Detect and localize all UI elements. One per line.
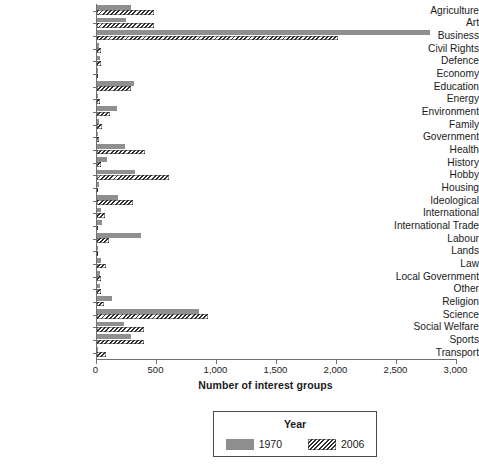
bar-2006-agriculture (97, 10, 155, 15)
bar-2006-social-welfare (97, 327, 144, 332)
category-tick (93, 36, 96, 37)
bar-1970-business (97, 30, 430, 35)
bar-2006-sports (97, 340, 144, 345)
bar-2006-international-trade (97, 226, 98, 231)
legend-swatch-1970-icon (226, 439, 254, 450)
bar-1970-other (97, 284, 100, 289)
bar-2006-science (97, 314, 209, 319)
category-label: Other (387, 284, 479, 294)
category-label: Defence (387, 56, 479, 66)
category-label: Social Welfare (387, 322, 479, 332)
category-tick (93, 302, 96, 303)
bar-2006-art (97, 23, 154, 28)
legend-items: 1970 2006 (214, 438, 376, 450)
category-tick (93, 277, 96, 278)
bar-2006-defence (97, 61, 101, 66)
category-tick (93, 125, 96, 126)
legend-swatch-2006-icon (308, 439, 336, 450)
bar-2006-international (97, 213, 105, 218)
category-label: Transport (387, 348, 479, 358)
category-label: Environment (387, 107, 479, 117)
bar-1970-local-government (97, 271, 101, 276)
bar-2006-labour (97, 238, 110, 243)
x-tick-label: 3,000 (444, 364, 468, 375)
legend-item-2006: 2006 (308, 438, 364, 450)
category-label: Local Government (387, 272, 479, 282)
x-axis-title: Number of interest groups (0, 379, 479, 391)
x-axis-title-text: Number of interest groups (198, 379, 332, 391)
category-tick (93, 23, 96, 24)
bar-2006-education (97, 86, 132, 91)
bar-2006-local-government (97, 276, 101, 281)
bar-1970-labour (97, 233, 141, 238)
bar-1970-science (97, 309, 199, 314)
category-tick (93, 239, 96, 240)
category-label: Art (387, 18, 479, 28)
bar-1970-transport (97, 347, 99, 352)
legend-label-1970: 1970 (259, 438, 282, 450)
category-tick (93, 213, 96, 214)
category-label: International (387, 208, 479, 218)
bar-2006-history (97, 162, 102, 167)
bar-1970-civil-rights (97, 43, 99, 48)
category-tick (93, 226, 96, 227)
bar-1970-hobby (97, 170, 135, 175)
category-label: History (387, 158, 479, 168)
category-label: Economy (387, 69, 479, 79)
bar-2006-environment (97, 112, 111, 117)
bar-2006-health (97, 150, 145, 155)
category-tick (93, 11, 96, 12)
bar-1970-sports (97, 334, 132, 339)
bar-1970-international-trade (97, 220, 102, 225)
x-tick-label: 1,000 (204, 364, 228, 375)
bar-1970-environment (97, 106, 117, 111)
category-tick (93, 137, 96, 138)
bar-1970-education (97, 81, 134, 86)
category-tick (93, 188, 96, 189)
category-label: Science (387, 310, 479, 320)
x-tick-label: 2,000 (324, 364, 348, 375)
bar-2006-family (97, 124, 102, 129)
bar-1970-ideological (97, 195, 118, 200)
category-label: Hobby (387, 170, 479, 180)
bar-1970-energy (97, 94, 99, 99)
bar-1970-economy (97, 68, 98, 73)
category-tick (93, 327, 96, 328)
category-tick (93, 112, 96, 113)
x-tick-label: 2,500 (384, 364, 408, 375)
category-label: Religion (387, 297, 479, 307)
category-tick (93, 99, 96, 100)
bar-2006-economy (97, 74, 99, 79)
bar-1970-health (97, 144, 126, 149)
bar-1970-housing (97, 182, 99, 187)
bar-1970-agriculture (97, 5, 131, 10)
category-label: Education (387, 82, 479, 92)
legend-title: Year (214, 418, 376, 430)
category-label: Labour (387, 234, 479, 244)
x-tick-label: 500 (148, 364, 164, 375)
category-tick (93, 150, 96, 151)
bar-2006-religion (97, 302, 104, 307)
bar-2006-business (97, 36, 339, 41)
bar-1970-law (97, 258, 102, 263)
bar-1970-government (97, 132, 99, 137)
category-tick (93, 289, 96, 290)
category-label: Sports (387, 335, 479, 345)
bar-1970-family (97, 119, 99, 124)
bar-2006-other (97, 289, 102, 294)
category-tick (93, 201, 96, 202)
x-tick-label: 1,500 (264, 364, 288, 375)
bar-2006-hobby (97, 175, 170, 180)
bar-1970-lands (97, 246, 98, 251)
bar-1970-defence (97, 56, 100, 61)
category-label: Civil Rights (387, 44, 479, 54)
category-tick (93, 315, 96, 316)
category-label: Government (387, 132, 479, 142)
category-tick (93, 163, 96, 164)
bar-2006-transport (97, 352, 106, 357)
category-label: International Trade (387, 221, 479, 231)
legend: Year 1970 2006 (213, 411, 377, 457)
bar-2006-government (97, 137, 99, 142)
bar-1970-international (97, 208, 101, 213)
legend-label-2006: 2006 (341, 438, 364, 450)
